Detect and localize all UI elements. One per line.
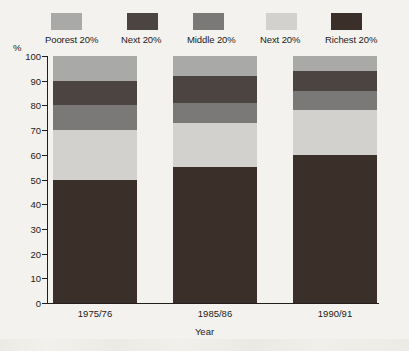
y-axis-tick-label: 70 bbox=[30, 126, 41, 135]
y-axis-tick-label: 100 bbox=[25, 52, 41, 61]
y-axis-tick bbox=[42, 155, 47, 156]
legend-swatch-richest-20 bbox=[331, 13, 362, 30]
legend-item-poorest-20: Poorest 20% bbox=[45, 13, 121, 45]
y-axis-tick bbox=[42, 254, 47, 255]
legend-swatch-next-20-second bbox=[127, 13, 158, 30]
bar-segment bbox=[53, 81, 137, 106]
bar-segment bbox=[173, 167, 257, 303]
legend-swatch-next-20-fourth bbox=[266, 13, 297, 30]
bar-segment bbox=[173, 56, 257, 76]
y-axis-tick-label: 80 bbox=[30, 101, 41, 110]
bar-segment bbox=[293, 155, 377, 303]
y-axis-tick-label: 90 bbox=[30, 77, 41, 86]
plot-area bbox=[47, 56, 379, 304]
bar-segment bbox=[173, 76, 257, 103]
y-axis-tick-label: 20 bbox=[30, 250, 41, 259]
y-axis-tick bbox=[42, 81, 47, 82]
y-axis-tick-label: 0 bbox=[36, 299, 41, 308]
bar-segment bbox=[53, 56, 137, 81]
bar-segment bbox=[293, 56, 377, 71]
y-axis-tick-labels: 0102030405060708090100 bbox=[0, 56, 41, 304]
y-axis-tick-label: 30 bbox=[30, 225, 41, 234]
legend-item-richest-20: Richest 20% bbox=[325, 13, 405, 45]
y-axis-unit-label: % bbox=[13, 42, 21, 53]
x-axis-label-1990-91: 1990/91 bbox=[290, 308, 380, 319]
y-axis-tick bbox=[42, 105, 47, 106]
y-axis-tick bbox=[42, 204, 47, 205]
chart-legend: Poorest 20% Next 20% Middle 20% Next 20%… bbox=[45, 13, 405, 45]
y-axis-tick-label: 40 bbox=[30, 200, 41, 209]
legend-item-middle-20: Middle 20% bbox=[187, 13, 260, 45]
legend-label-richest-20: Richest 20% bbox=[325, 34, 377, 45]
chart-page: Poorest 20% Next 20% Middle 20% Next 20%… bbox=[0, 0, 409, 351]
bar-segment bbox=[53, 130, 137, 179]
y-axis-tick bbox=[42, 56, 47, 57]
y-axis-tick-label: 50 bbox=[30, 176, 41, 185]
x-axis-tick-labels: 1975/76 1985/86 1990/91 bbox=[47, 308, 379, 322]
bar-segment bbox=[293, 71, 377, 91]
stacked-bar-1985-86 bbox=[173, 56, 257, 303]
x-axis-label-1975-76: 1975/76 bbox=[50, 308, 140, 319]
stacked-bar-1990-91 bbox=[293, 56, 377, 303]
y-axis-tick bbox=[42, 278, 47, 279]
legend-label-middle-20: Middle 20% bbox=[187, 34, 236, 45]
bar-segment bbox=[293, 91, 377, 111]
y-axis-tick bbox=[42, 130, 47, 131]
legend-item-next-20-second: Next 20% bbox=[121, 13, 187, 45]
bar-segment bbox=[173, 123, 257, 167]
legend-swatch-poorest-20 bbox=[51, 13, 82, 30]
y-axis-tick bbox=[42, 229, 47, 230]
bar-segment bbox=[293, 110, 377, 154]
stacked-bar-1975-76 bbox=[53, 56, 137, 303]
y-axis-tick bbox=[42, 303, 47, 304]
x-axis-line bbox=[47, 303, 379, 304]
y-axis-line bbox=[47, 56, 48, 304]
legend-item-next-20-fourth: Next 20% bbox=[260, 13, 325, 45]
y-axis-tick-label: 60 bbox=[30, 151, 41, 160]
bar-segment bbox=[53, 180, 137, 304]
legend-label-next-20-second: Next 20% bbox=[121, 34, 161, 45]
bar-segment bbox=[53, 105, 137, 130]
legend-label-poorest-20: Poorest 20% bbox=[45, 34, 98, 45]
y-axis-tick bbox=[42, 180, 47, 181]
y-axis-tick-label: 10 bbox=[30, 274, 41, 283]
scan-artifact-band bbox=[0, 339, 409, 351]
legend-swatch-middle-20 bbox=[193, 13, 224, 30]
legend-label-next-20-fourth: Next 20% bbox=[260, 34, 300, 45]
bar-segment bbox=[173, 103, 257, 123]
x-axis-label-1985-86: 1985/86 bbox=[170, 308, 260, 319]
x-axis-title: Year bbox=[0, 326, 409, 337]
